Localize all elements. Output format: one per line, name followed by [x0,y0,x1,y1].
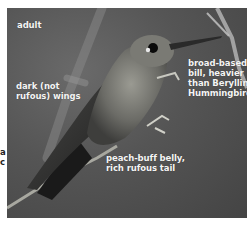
wings-annotation-line: dark (not [16,81,80,91]
hummingbird-photo: adult dark (not rufous) wings broad-base… [7,8,247,218]
cropped-text-fragment: c [0,157,5,167]
bill-annotation: broad-based bill, heavier than Berylline… [188,58,247,98]
bill-annotation-line: than Berylline [188,78,247,88]
wings-annotation-line: rufous) wings [16,91,80,101]
wings-annotation: dark (not rufous) wings [16,81,80,101]
cropped-text-fragment: a [0,147,6,157]
bill-annotation-line: Hummingbird [188,88,247,98]
belly-annotation-line: peach-buff belly, [106,153,185,163]
belly-tail-annotation: peach-buff belly, rich rufous tail [106,153,185,173]
belly-annotation-line: rich rufous tail [106,163,185,173]
bill-annotation-line: bill, heavier [188,68,247,78]
age-label: adult [17,20,41,30]
hummingbird-illustration [7,8,247,218]
bill-annotation-line: broad-based [188,58,247,68]
